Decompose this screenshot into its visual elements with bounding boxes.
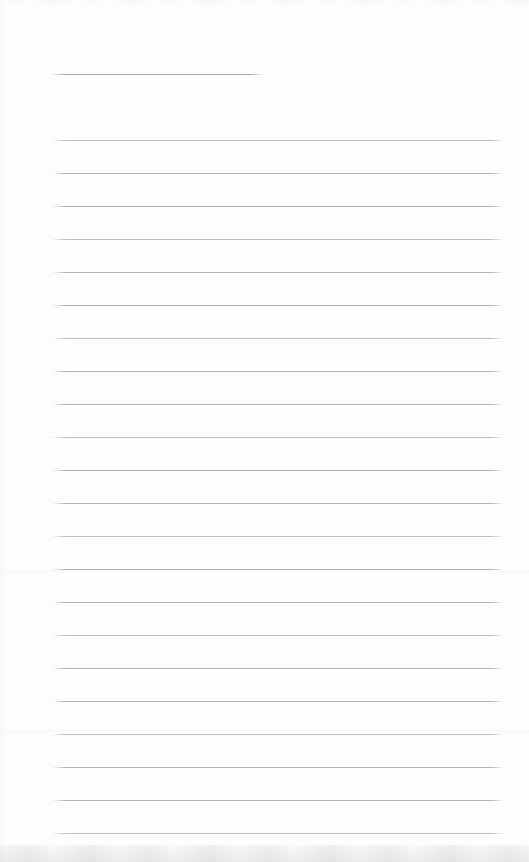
paper-crease [0,730,529,733]
ruled-line [52,305,504,306]
ruled-line [52,206,504,207]
ruled-line [52,140,504,141]
scanned-page [0,0,529,862]
scan-artifact-top-edge [0,0,529,9]
paper-crease [0,570,529,573]
ruled-line [52,536,504,537]
ruled-line [52,470,504,471]
ruled-line [52,503,504,504]
scan-artifact-bottom-edge [0,845,529,862]
ruled-line [52,635,504,636]
ruled-line [52,602,504,603]
ruled-line [52,800,504,801]
ruled-line [52,833,504,834]
ruled-line [52,701,504,702]
ruled-line [52,668,504,669]
ruled-line [52,239,504,240]
ruled-line [52,734,504,735]
header-rule-line [51,74,263,75]
ruled-line [52,404,504,405]
ruled-line [52,767,504,768]
ruled-line [52,437,504,438]
ruled-line [52,338,504,339]
ruled-line [52,272,504,273]
ruled-line [52,371,504,372]
ruled-line [52,173,504,174]
